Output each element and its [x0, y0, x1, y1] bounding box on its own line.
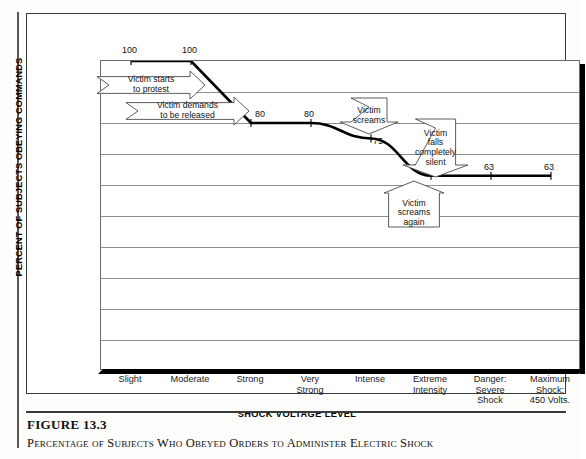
callout-victim-falls-completely-silent: Victim falls completely silent — [402, 118, 469, 178]
callout-victim-demands-release: Victim demands to be released — [125, 96, 250, 126]
x-axis-tick-label-7: Maximum Shock: 450 Volts. — [514, 374, 586, 406]
callout-shape-down-arrow — [339, 97, 399, 135]
callout-victim-screams: Victim screams — [339, 97, 399, 135]
y-axis-title: PERCENT OF SUBJECTS OBEYING COMMANDS — [14, 0, 24, 347]
plot-shadow-right — [580, 64, 585, 374]
data-point-label-2: 80 — [255, 109, 265, 119]
figure-caption-text: Percentage of Subjects Who Obeyed Orders… — [27, 436, 567, 451]
callout-shape-right-arrow — [125, 96, 250, 126]
figure-frame: PERCENT OF SUBJECTS OBEYING COMMANDS 100… — [26, 13, 566, 394]
callout-shape-up-arrow — [383, 180, 445, 228]
data-point-label-6: 63 — [484, 162, 494, 172]
data-point-label-1: 100 — [182, 45, 197, 55]
callout-victim-screams-again: Victim screams again — [383, 180, 445, 228]
figure-number: FIGURE 13.3 — [27, 417, 567, 433]
data-point-label-0: 100 — [122, 45, 137, 55]
data-point-label-4: 75 — [373, 136, 383, 146]
callout-shape-down-arrow — [402, 118, 469, 178]
caption-divider — [26, 411, 566, 413]
data-point-label-3: 80 — [304, 109, 314, 119]
figure-caption: FIGURE 13.3 Percentage of Subjects Who O… — [27, 417, 567, 451]
data-point-label-7: 63 — [544, 162, 554, 172]
